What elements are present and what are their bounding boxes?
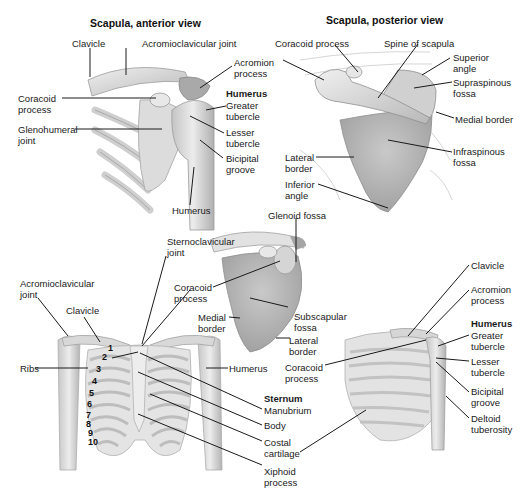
label-lesser-tubercle: Lesser tubercle [226,127,260,149]
label-coracoid-process-posterior: Coracoid process [275,38,349,49]
label-acromioclavicular-joint-front: Acromioclavicular joint [20,278,94,300]
label-superior-angle: Superior angle [453,52,489,74]
label-medial-border-posterior: Medial border [455,114,513,125]
title-scapula-anterior: Scapula, anterior view [90,17,201,29]
label-bicipital-groove-side: Bicipital groove [471,386,504,408]
label-spine-of-scapula: Spine of scapula [384,38,454,49]
label-acromion-process: Acromion process [234,57,274,79]
label-coracoid-process-anterior: Coracoid process [174,282,212,304]
label-deltoid-tuberosity: Deltoid tuberosity [471,413,512,435]
label-glenohumeral-joint: Glenohumeral joint [18,124,78,146]
label-acromioclavicular-joint: Acromioclavicular joint [142,38,237,49]
anatomy-diagram: Scapula, anterior view Scapula, posterio… [0,0,528,501]
label-coracoid-process-side: Coracoid process [285,362,323,384]
label-infraspinous-fossa: Infraspinous fossa [453,146,505,168]
label-sternum-body: Body [264,420,286,431]
rib-number-3: 3 [96,364,101,374]
rib-number-5: 5 [89,388,94,398]
label-greater-tubercle-side: Greater tubercle [471,330,505,352]
rib-number-2: 2 [102,352,107,362]
label-coracoid-process: Coracoid process [18,93,56,115]
label-supraspinous-fossa: Supraspinous fossa [453,77,511,99]
label-bicipital-groove: Bicipital groove [226,153,259,175]
label-clavicle-front: Clavicle [66,305,99,316]
label-glenoid-fossa: Glenoid fossa [268,210,326,221]
label-lesser-tubercle-side: Lesser tubercle [471,356,505,378]
label-sternoclavicular-joint: Sternoclavicular joint [167,236,235,258]
label-humerus-header-side: Humerus [471,318,512,329]
label-humerus: Humerus [172,205,211,216]
label-acromion-process-side: Acromion process [471,284,511,306]
title-scapula-posterior: Scapula, posterior view [326,14,443,26]
label-humerus-front: Humerus [229,363,268,374]
rib-number-1: 1 [108,343,113,353]
label-lateral-border-anterior: Lateral border [289,335,318,357]
thorax-front-illustration [58,335,222,470]
label-medial-border-anterior: Medial border [198,312,226,334]
label-manubrium: Manubrium [264,405,312,416]
posterior-scapula-illustration [300,52,452,212]
rib-number-10: 10 [88,437,98,447]
label-xiphoid-process: Xiphoid process [264,466,297,488]
label-ribs: Ribs [20,363,39,374]
label-lateral-border-posterior: Lateral border [285,152,314,174]
label-clavicle: Clavicle [72,38,105,49]
label-greater-tubercle: Greater tubercle [226,100,260,122]
label-clavicle-side: Clavicle [471,260,504,271]
rib-number-4: 4 [92,376,97,386]
label-humerus-header: Humerus [226,88,267,99]
label-costal-cartilage: Costal cartilage [264,437,300,459]
label-sternum-header: Sternum [264,393,303,404]
label-inferior-angle: Inferior angle [285,179,315,201]
rib-number-6: 6 [87,399,92,409]
label-subscapular-fossa: Subscapular fossa [294,311,347,333]
thorax-side-illustration [345,328,446,450]
